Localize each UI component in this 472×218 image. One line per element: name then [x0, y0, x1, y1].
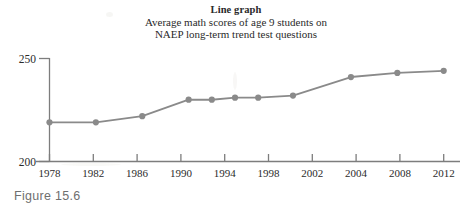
x-tick-label: 1978: [39, 167, 62, 179]
data-point-marker: [255, 95, 261, 101]
x-tick-label: 1998: [258, 167, 281, 179]
x-tick-label: 2002: [301, 167, 323, 179]
data-point-marker: [232, 95, 238, 101]
chart-svg: 250 200 1978 1982 1986 1990 1994: [0, 0, 472, 218]
x-axis-ticks: [50, 154, 444, 162]
y-tick-label-200: 200: [19, 156, 37, 168]
x-tick-label: 1990: [170, 167, 193, 179]
data-line-series: [50, 71, 444, 123]
x-tick-label: 1986: [126, 167, 149, 179]
x-tick-label: 2012: [433, 167, 455, 179]
x-tick-label: 1994: [214, 167, 237, 179]
data-markers-group: [46, 68, 446, 126]
figure-15-6: Line graph Average math scores of age 9 …: [0, 0, 472, 218]
data-point-marker: [441, 68, 447, 74]
data-point-marker: [348, 74, 354, 80]
data-point-marker: [93, 119, 99, 125]
figure-caption: Figure 15.6: [14, 189, 81, 203]
x-tick-label: 1982: [82, 167, 104, 179]
data-point-marker: [139, 113, 145, 119]
x-axis-tick-labels: 1978 1982 1986 1990 1994 1998 2002 2004 …: [39, 167, 455, 179]
data-point-marker: [394, 70, 400, 76]
data-point-marker: [186, 97, 192, 103]
x-tick-label: 2008: [389, 167, 412, 179]
data-point-marker: [46, 119, 52, 125]
x-tick-label: 2004: [345, 167, 368, 179]
data-point-marker: [290, 92, 296, 98]
line-chart-plot: 250 200 1978 1982 1986 1990 1994: [0, 0, 472, 218]
data-point-marker: [209, 97, 215, 103]
y-tick-label-250: 250: [19, 53, 37, 65]
